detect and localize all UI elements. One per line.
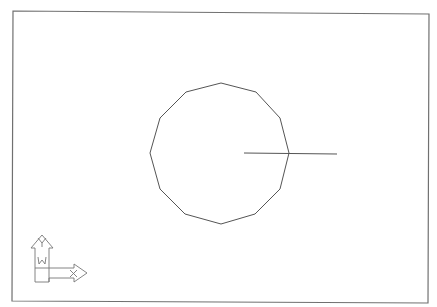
drawing-canvas[interactable]	[0, 0, 437, 307]
ucs-x-arrow	[35, 264, 87, 282]
ucs-icon	[31, 235, 87, 282]
ucs-y-arrow	[31, 235, 53, 268]
ucs-w-glyph	[38, 257, 46, 264]
radius-line[interactable]	[244, 153, 337, 154]
viewport-frame	[12, 11, 429, 303]
ucs-base-box	[35, 268, 49, 282]
